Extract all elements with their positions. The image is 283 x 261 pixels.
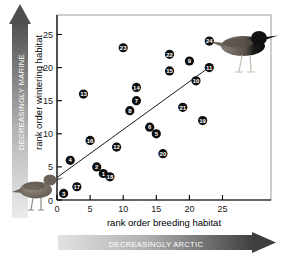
data-point-label: 20	[160, 151, 167, 157]
y-tick-5: 5	[48, 162, 53, 172]
data-point[interactable]: 19	[198, 116, 207, 125]
x-axis-ticks	[57, 195, 223, 200]
data-point[interactable]: 7	[132, 96, 141, 105]
data-point-label: 16	[87, 138, 94, 144]
data-point[interactable]: 3	[59, 189, 68, 198]
data-point[interactable]: 24	[205, 37, 214, 46]
x-tick-20: 20	[184, 204, 194, 214]
data-point[interactable]: 22	[165, 50, 174, 59]
x-tick-labels: 0 5 10 15 20 25	[54, 204, 227, 214]
x-tick-5: 5	[88, 204, 93, 214]
x-tick-10: 10	[118, 204, 128, 214]
data-point[interactable]: 18	[105, 172, 114, 181]
data-point-label: 24	[206, 38, 213, 44]
data-point[interactable]: 9	[185, 56, 194, 65]
decreasingly-arctic-arrow: DECREASINGLY ARCTIC	[58, 232, 276, 253]
data-point-label: 22	[166, 52, 173, 58]
decreasingly-arctic-label: DECREASINGLY ARCTIC	[109, 240, 204, 249]
data-point-label: 15	[166, 68, 173, 74]
data-point-label: 10	[193, 78, 200, 84]
x-tick-15: 15	[151, 204, 161, 214]
data-point[interactable]: 16	[86, 136, 95, 145]
data-point-label: 18	[107, 174, 114, 180]
data-point[interactable]: 17	[72, 182, 81, 191]
y-tick-10: 10	[43, 129, 53, 139]
data-point-label: 17	[74, 184, 81, 190]
data-point[interactable]: 23	[119, 43, 128, 52]
data-point-label: 14	[133, 85, 140, 91]
data-point[interactable]: 5	[152, 129, 161, 138]
x-axis-title: rank order breeding habitat	[107, 217, 221, 228]
data-point-label: 21	[179, 105, 186, 111]
data-point-label: 12	[113, 144, 120, 150]
x-tick-25: 25	[217, 204, 227, 214]
data-point[interactable]: 20	[158, 149, 167, 158]
trend-line	[57, 66, 211, 177]
data-point[interactable]: 13	[79, 89, 88, 98]
data-point[interactable]: 6	[145, 123, 154, 132]
x-tick-0: 0	[54, 204, 59, 214]
data-point-label: 11	[206, 65, 213, 71]
data-point[interactable]: 21	[178, 103, 187, 112]
wader-bird-dark-illustration	[208, 31, 278, 72]
decreasingly-marine-label: DECREASINGLY MARINE	[17, 54, 26, 150]
y-tick-20: 20	[43, 63, 53, 73]
y-tick-15: 15	[43, 96, 53, 106]
data-point[interactable]: 4	[66, 156, 75, 165]
data-point[interactable]: 12	[112, 142, 121, 151]
data-point-label: 13	[80, 91, 87, 97]
plot-canvas: DECREASINGLY MARINE rank order wintering…	[0, 0, 283, 261]
data-point[interactable]: 11	[205, 63, 214, 72]
data-point[interactable]: 2	[92, 162, 101, 171]
data-point[interactable]: 8	[125, 106, 134, 115]
data-point-label: 19	[199, 118, 206, 124]
data-point[interactable]: 15	[165, 66, 174, 75]
data-point-label: 23	[120, 45, 127, 51]
y-tick-25: 25	[43, 30, 53, 40]
data-series-layer: 317413162118122387146520221521910191124	[57, 37, 214, 198]
y-tick-0: 0	[48, 196, 53, 206]
data-point[interactable]: 14	[132, 83, 141, 92]
data-point[interactable]: 10	[191, 76, 200, 85]
scatter-plot-figure: DECREASINGLY MARINE rank order wintering…	[0, 0, 283, 261]
